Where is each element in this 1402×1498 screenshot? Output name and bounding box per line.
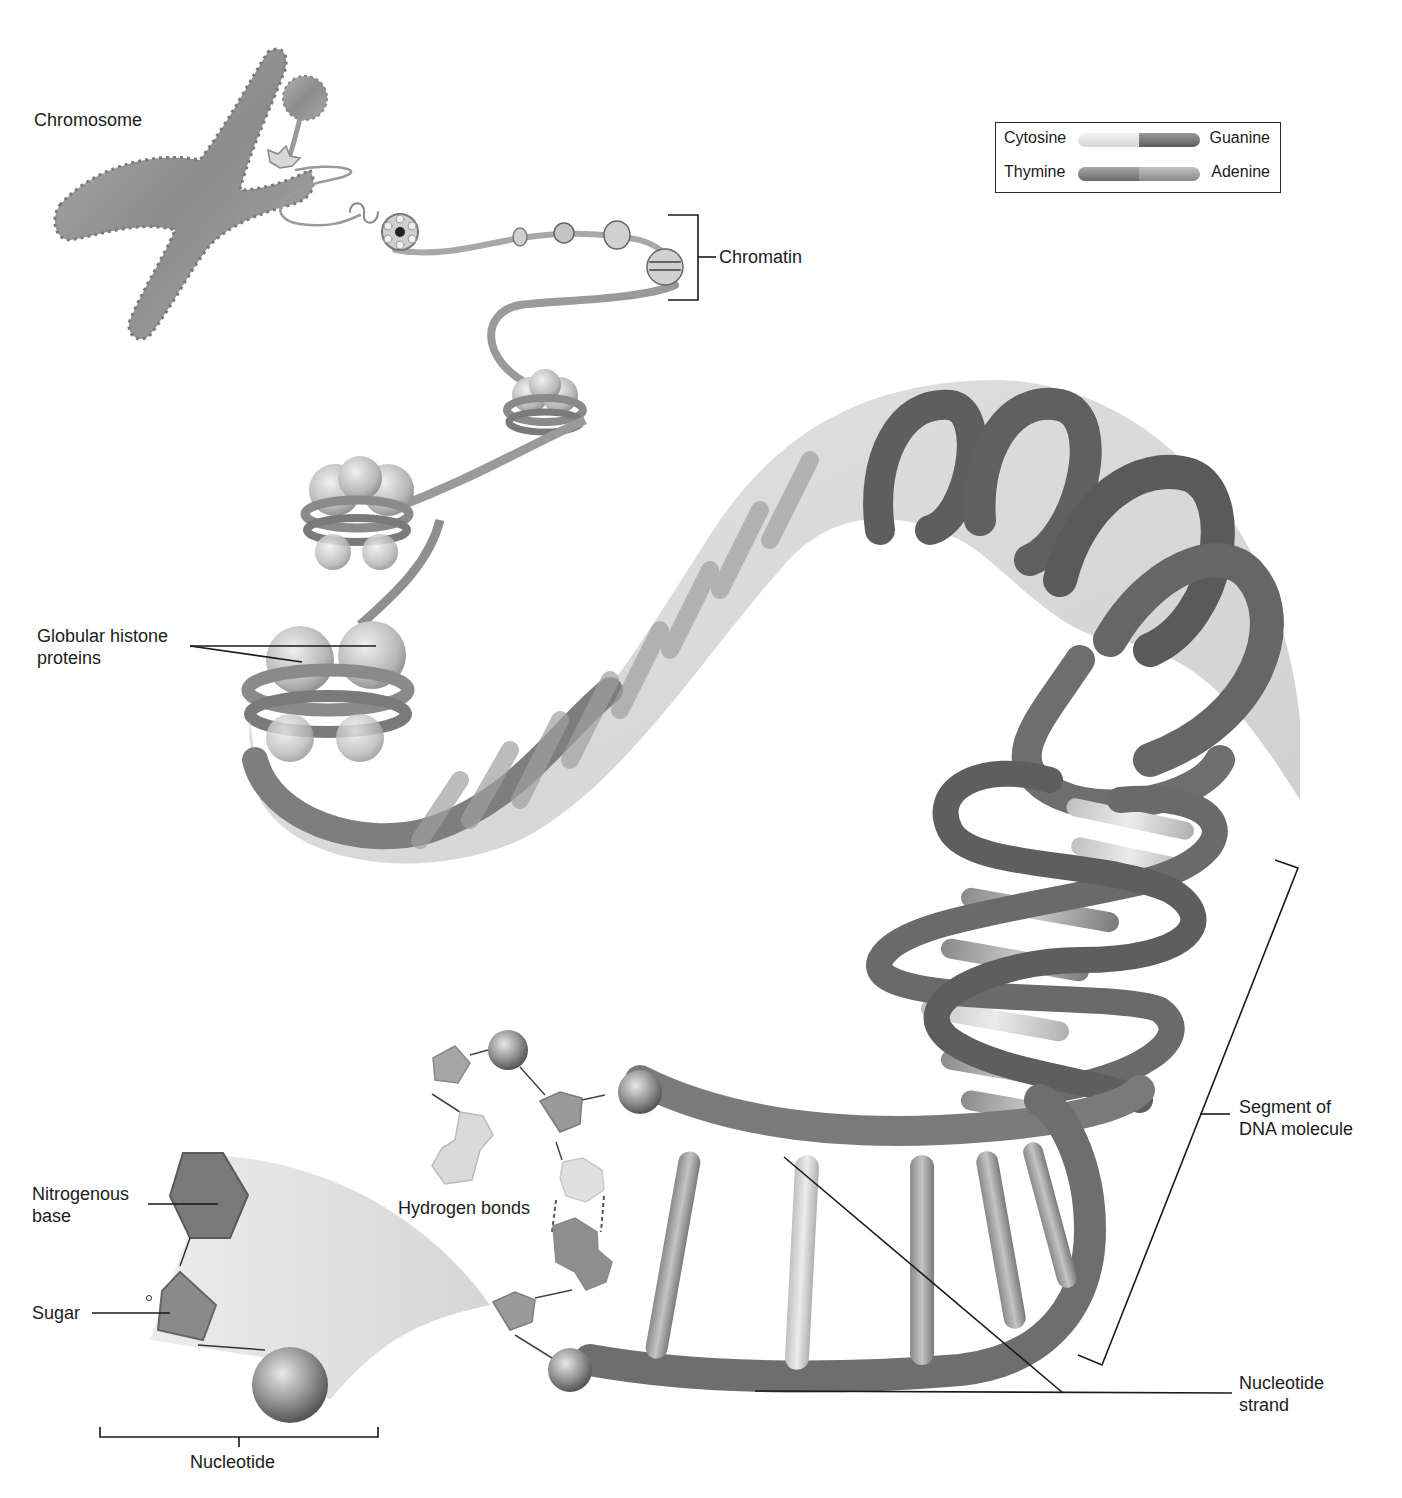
nucleotide-strand-line2: strand: [1239, 1394, 1324, 1416]
diagram-illustration: [0, 0, 1402, 1498]
chromosome-illustration: [55, 49, 327, 339]
histone-label: Globular histone proteins: [37, 625, 168, 669]
segment-label-line1: Segment of: [1239, 1096, 1353, 1118]
thymine-swatch: [1078, 167, 1139, 181]
dna-structure-diagram: Chromosome Chromatin Globular histone pr…: [0, 0, 1402, 1498]
sugar-label: Sugar: [32, 1302, 80, 1324]
legend-row-thymine-adenine: Thymine Adenine: [996, 159, 1280, 189]
legend-guanine-label: Guanine: [1210, 129, 1271, 147]
nitrogenous-label-line2: base: [32, 1205, 129, 1227]
hydrogen-bonds-label: Hydrogen bonds: [398, 1197, 530, 1219]
dna-double-helix: [548, 774, 1215, 1392]
lower-rungs: [644, 1140, 1079, 1371]
chromatin-label: Chromatin: [719, 246, 802, 268]
phosphate-sphere: [618, 1070, 662, 1114]
segment-label: Segment of DNA molecule: [1239, 1096, 1353, 1140]
nucleosome-middle: [305, 456, 414, 570]
nucleosome-lower: [248, 621, 408, 762]
legend-adenine-label: Adenine: [1211, 163, 1270, 181]
nucleotide-strand-label: Nucleotide strand: [1239, 1372, 1324, 1416]
adenine-swatch: [1139, 167, 1200, 181]
cytosine-swatch: [1078, 133, 1139, 147]
histone-label-line1: Globular histone: [37, 625, 168, 647]
chromosome-label: Chromosome: [34, 109, 142, 131]
nucleotide-strand-line1: Nucleotide: [1239, 1372, 1324, 1394]
phosphate-sphere: [252, 1347, 328, 1423]
nucleotide-illustration: [147, 1153, 491, 1423]
legend-row-cytosine-guanine: Cytosine Guanine: [996, 125, 1280, 155]
nucleotide-bracket: [100, 1427, 378, 1437]
legend-cytosine-label: Cytosine: [1004, 129, 1066, 147]
legend-ta-bar: [1078, 167, 1200, 181]
guanine-swatch: [1139, 133, 1200, 147]
phosphate-sphere: [548, 1348, 592, 1392]
nucleotide-label: Nucleotide: [190, 1451, 275, 1473]
nitrogenous-base-label: Nitrogenous base: [32, 1183, 129, 1227]
legend-cg-bar: [1078, 133, 1200, 147]
legend-thymine-label: Thymine: [1004, 163, 1065, 181]
base-pair-legend: Cytosine Guanine Thymine Adenine: [995, 122, 1281, 193]
linker-dna: [390, 420, 585, 510]
chromatin-thread: [280, 167, 683, 385]
nitrogenous-label-line1: Nitrogenous: [32, 1183, 129, 1205]
histone-label-line2: proteins: [37, 647, 168, 669]
segment-label-line2: DNA molecule: [1239, 1118, 1353, 1140]
